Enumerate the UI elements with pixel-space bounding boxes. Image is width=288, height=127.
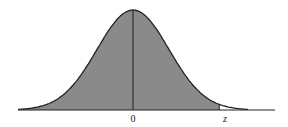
tick-label-zero: 0	[131, 113, 136, 124]
tick-label-z: z	[222, 113, 227, 124]
normal-curve-chart: 0 z	[0, 0, 288, 127]
shaded-area	[18, 10, 219, 110]
